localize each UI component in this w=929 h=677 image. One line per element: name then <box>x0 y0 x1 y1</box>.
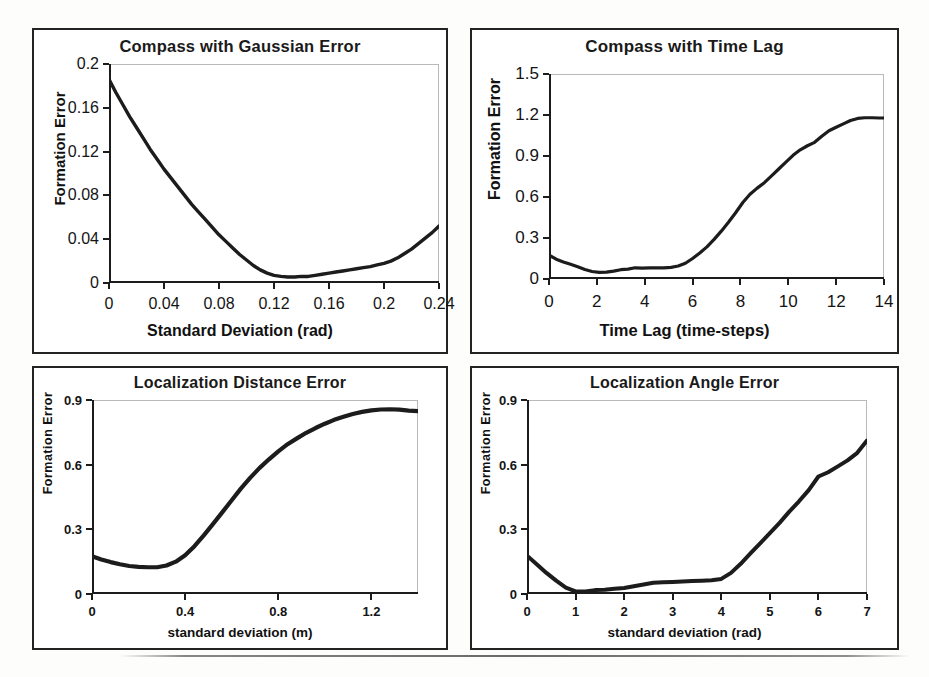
y-tick-label: 0.9 <box>457 393 517 408</box>
x-tick-label: 2 <box>592 292 601 312</box>
x-tick-label: 14 <box>875 292 894 312</box>
x-tick-mark <box>644 279 646 285</box>
x-tick-label: 0 <box>88 604 95 619</box>
x-tick-mark <box>623 594 625 600</box>
x-axis-title: Time Lag (time-steps) <box>472 321 897 340</box>
y-tick-label: 0 <box>457 587 517 602</box>
y-tick-label: 0.16 <box>39 99 99 117</box>
x-tick-mark <box>548 279 550 285</box>
x-axis-title: Standard Deviation (rad) <box>34 322 446 340</box>
x-tick-mark <box>596 279 598 285</box>
y-tick-label: 0.6 <box>457 457 517 472</box>
x-axis-title: standard deviation (m) <box>34 625 446 640</box>
x-axis-title: standard deviation (rad) <box>472 625 897 640</box>
x-tick-mark <box>277 594 279 600</box>
x-tick-mark <box>526 594 528 600</box>
chart-title: Localization Distance Error <box>34 374 446 392</box>
x-tick-mark <box>692 279 694 285</box>
x-tick-label: 3 <box>669 604 676 619</box>
y-tick-label: 0.3 <box>22 522 82 537</box>
data-series-line <box>92 400 418 594</box>
chart-panel-localization-angle-error: Localization Angle Error Formation Error… <box>470 366 899 650</box>
y-tick-label: 0 <box>39 274 99 292</box>
y-tick-label: 0 <box>479 269 539 289</box>
x-tick-mark <box>108 283 110 289</box>
x-tick-mark <box>383 283 385 289</box>
x-tick-mark <box>91 594 93 600</box>
x-tick-label: 2 <box>621 604 628 619</box>
y-tick-label: 0.6 <box>479 187 539 207</box>
y-tick-label: 0.3 <box>457 522 517 537</box>
x-tick-label: 6 <box>815 604 822 619</box>
chart-title: Localization Angle Error <box>472 374 897 392</box>
x-tick-label: 0.4 <box>176 604 194 619</box>
x-tick-label: 0.24 <box>423 295 454 313</box>
y-tick-label: 0.6 <box>22 457 82 472</box>
data-series-line <box>109 64 439 283</box>
x-tick-label: 0 <box>544 292 553 312</box>
x-tick-mark <box>817 594 819 600</box>
x-tick-mark <box>720 594 722 600</box>
y-tick-label: 0.9 <box>22 393 82 408</box>
x-tick-mark <box>328 283 330 289</box>
plot-area: 00.30.60.901234567 <box>527 400 867 594</box>
data-series-line <box>549 74 884 279</box>
x-tick-label: 5 <box>766 604 773 619</box>
data-series-line <box>527 400 867 594</box>
y-tick-label: 0 <box>22 587 82 602</box>
x-tick-label: 0.2 <box>373 295 395 313</box>
plot-area: 00.040.080.120.160.200.040.080.120.160.2… <box>109 64 439 283</box>
x-tick-mark <box>672 594 674 600</box>
y-tick-label: 0.04 <box>39 230 99 248</box>
plot-area: 00.30.60.900.40.81.2 <box>92 400 418 594</box>
y-tick-label: 0.3 <box>479 228 539 248</box>
x-tick-label: 12 <box>827 292 846 312</box>
y-tick-label: 0.12 <box>39 143 99 161</box>
chart-panel-compass-time-lag: Compass with Time Lag Formation Error Ti… <box>470 28 899 354</box>
y-tick-label: 0.2 <box>39 55 99 73</box>
x-tick-label: 7 <box>863 604 870 619</box>
y-tick-label: 0.08 <box>39 186 99 204</box>
chart-panel-localization-distance-error: Localization Distance Error Formation Er… <box>32 366 448 650</box>
x-tick-label: 0.04 <box>148 295 179 313</box>
x-tick-label: 0 <box>523 604 530 619</box>
x-tick-mark <box>438 283 440 289</box>
x-tick-label: 1 <box>572 604 579 619</box>
chart-title: Compass with Gaussian Error <box>34 37 446 56</box>
x-tick-mark <box>883 279 885 285</box>
y-tick-label: 1.2 <box>479 105 539 125</box>
figure-page: Compass with Gaussian Error Formation Er… <box>0 0 929 677</box>
chart-title: Compass with Time Lag <box>472 37 897 57</box>
x-tick-label: 0 <box>105 295 114 313</box>
x-tick-label: 0.16 <box>313 295 344 313</box>
x-tick-mark <box>787 279 789 285</box>
x-tick-label: 10 <box>779 292 798 312</box>
x-tick-mark <box>739 279 741 285</box>
x-tick-mark <box>866 594 868 600</box>
x-tick-mark <box>163 283 165 289</box>
x-tick-label: 1.2 <box>362 604 380 619</box>
x-tick-label: 0.8 <box>269 604 287 619</box>
x-tick-mark <box>835 279 837 285</box>
x-tick-mark <box>575 594 577 600</box>
x-tick-label: 8 <box>736 292 745 312</box>
x-tick-label: 0.12 <box>258 295 289 313</box>
x-tick-mark <box>370 594 372 600</box>
y-tick-label: 0.9 <box>479 146 539 166</box>
x-tick-mark <box>184 594 186 600</box>
y-tick-label: 1.5 <box>479 64 539 84</box>
plot-area: 00.30.60.91.21.502468101214 <box>549 74 884 279</box>
x-tick-label: 0.08 <box>203 295 234 313</box>
x-tick-label: 4 <box>718 604 725 619</box>
x-tick-mark <box>218 283 220 289</box>
scan-artifact-line <box>120 655 910 657</box>
chart-panel-compass-gaussian-error: Compass with Gaussian Error Formation Er… <box>32 28 448 354</box>
x-tick-mark <box>769 594 771 600</box>
x-tick-mark <box>273 283 275 289</box>
x-tick-label: 4 <box>640 292 649 312</box>
x-tick-label: 6 <box>688 292 697 312</box>
